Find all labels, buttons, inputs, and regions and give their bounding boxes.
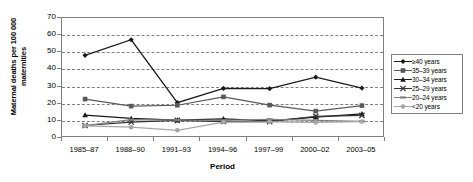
legend-marker-triangle-icon: [394, 75, 412, 84]
x-axis-title: Period: [61, 162, 384, 171]
legend-marker-diamond-icon: [394, 57, 412, 66]
x-axis-tick-mark: [107, 137, 108, 141]
data-point-diamond: [400, 59, 405, 64]
y-axis-tick-value: 60: [47, 29, 56, 38]
data-point-circle: [221, 120, 226, 125]
series-2: [83, 95, 364, 114]
series-6: [83, 119, 364, 132]
data-point-square: [221, 95, 226, 100]
data-point-square: [360, 103, 365, 108]
plot-area: [61, 17, 384, 137]
y-axis-tick-value: 50: [47, 46, 56, 55]
data-point-square: [129, 104, 134, 109]
y-axis-tick-value: 70: [47, 12, 56, 21]
data-point-triangle: [400, 77, 406, 82]
x-axis-tick-label: 1997–99: [254, 145, 283, 154]
y-axis-tick-value: 30: [47, 81, 56, 90]
data-point-square: [267, 103, 272, 108]
y-axis-title: Maternal deaths per 100 000 maternities: [9, 4, 28, 129]
x-axis-tick-mark: [61, 137, 62, 141]
data-point-circle: [401, 104, 406, 109]
x-axis-tick-mark: [153, 137, 154, 141]
x-axis-tick-mark: [292, 137, 293, 141]
legend-item-2[interactable]: 35–39 years: [394, 66, 460, 75]
data-point-square: [83, 97, 88, 102]
legend-label: 30–34 years: [412, 76, 447, 83]
x-axis-tick-label: 2000–02: [300, 145, 329, 154]
data-point-square: [175, 103, 180, 108]
x-axis-tick-mark: [384, 137, 385, 141]
data-point-square: [313, 109, 318, 114]
data-point-diamond: [359, 86, 364, 91]
series-line: [85, 40, 362, 103]
maternal-deaths-line-chart: Maternal deaths per 100 000 maternities …: [0, 0, 473, 182]
y-axis-tick-value: 20: [47, 98, 56, 107]
data-point-diamond: [267, 86, 272, 91]
legend-marker-square-icon: [394, 66, 412, 75]
data-point-diamond: [82, 53, 87, 58]
legend-item-5[interactable]: 20–24 years: [394, 93, 460, 102]
legend-label: 25–29 years: [412, 85, 447, 92]
y-axis-tick-value: 40: [47, 63, 56, 72]
legend: ≥40 years35–39 years30–34 years25–29 yea…: [391, 54, 463, 114]
x-axis-tick-mark: [338, 137, 339, 141]
legend-marker-dash-icon: [394, 93, 412, 102]
data-point-cross: [400, 86, 405, 91]
data-point-circle: [267, 120, 272, 125]
x-axis-tick-mark: [246, 137, 247, 141]
data-point-diamond: [313, 75, 318, 80]
legend-item-4[interactable]: 25–29 years: [394, 84, 460, 93]
legend-marker-cross-icon: [394, 84, 412, 93]
data-point-circle: [175, 128, 180, 133]
data-point-circle: [360, 119, 365, 124]
series-layer: [62, 18, 385, 138]
y-axis-tick-value: 0: [52, 132, 56, 141]
data-point-circle: [83, 124, 88, 129]
data-point-dash: [400, 96, 406, 98]
data-point-dash: [128, 119, 134, 121]
x-axis-tick-label: 1991–93: [162, 145, 191, 154]
legend-label: <20 years: [412, 103, 440, 110]
legend-label: ≥40 years: [412, 58, 440, 65]
legend-label: 35–39 years: [412, 67, 447, 74]
legend-marker-circle-icon: [394, 102, 412, 111]
data-point-circle: [313, 120, 318, 125]
x-axis-tick-label: 1988–90: [116, 145, 145, 154]
legend-item-3[interactable]: 30–34 years: [394, 75, 460, 84]
x-axis-tick-label: 1985–87: [69, 145, 98, 154]
data-point-circle: [129, 125, 134, 130]
legend-item-1[interactable]: ≥40 years: [394, 57, 460, 66]
legend-item-6[interactable]: <20 years: [394, 102, 460, 111]
data-point-diamond: [221, 86, 226, 91]
data-point-dash: [174, 119, 180, 121]
x-axis-tick-label: 2003–05: [346, 145, 375, 154]
x-axis-tick-label: 1994–96: [208, 145, 237, 154]
y-axis-tick-value: 10: [47, 115, 56, 124]
legend-label: 20–24 years: [412, 94, 447, 101]
x-axis-tick-mark: [199, 137, 200, 141]
data-point-square: [401, 68, 406, 73]
